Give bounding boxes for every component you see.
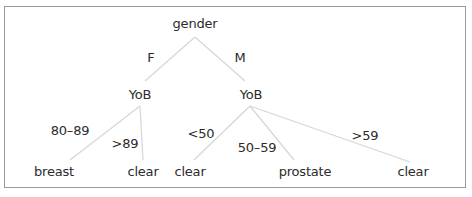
- edge-label-50-59: 50–59: [238, 141, 277, 154]
- edge-label-female: F: [147, 51, 154, 64]
- edge-label-under-50: <50: [188, 127, 215, 140]
- node-yob-female: YoB: [129, 88, 152, 101]
- node-yob-male: YoB: [240, 88, 263, 101]
- edge-label-80-89: 80–89: [51, 124, 90, 137]
- leaf-clear-male-under-50: clear: [174, 165, 205, 178]
- edge-label-over-59: >59: [352, 129, 379, 142]
- leaf-breast: breast: [34, 165, 74, 178]
- leaf-clear-female: clear: [127, 165, 158, 178]
- edge-female-clear: [140, 106, 143, 160]
- leaf-clear-male-over-59: clear: [397, 165, 428, 178]
- root-node-gender: gender: [173, 17, 218, 30]
- leaf-prostate: prostate: [279, 165, 332, 178]
- edge-label-male: M: [234, 51, 245, 64]
- edge-label-over-89: >89: [112, 137, 139, 150]
